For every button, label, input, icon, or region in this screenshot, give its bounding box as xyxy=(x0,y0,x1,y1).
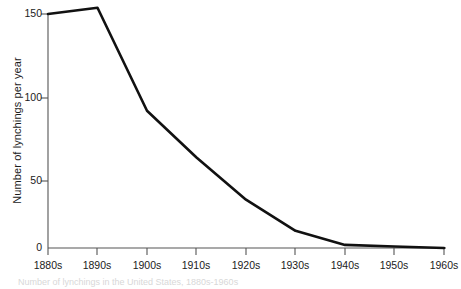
y-tick-label-100: 100 xyxy=(12,92,42,103)
y-tick-label-150: 150 xyxy=(12,8,42,19)
y-tick-label-50: 50 xyxy=(12,175,42,186)
chart-figure: Number of lynchings per year 150 100 50 … xyxy=(0,0,461,289)
series-line-lynchings xyxy=(48,8,444,248)
y-axis-tick-labels: 150 100 50 0 xyxy=(0,0,42,289)
figure-caption: Number of lynchings in the United States… xyxy=(18,277,458,288)
chart-plot-area xyxy=(0,0,461,289)
y-tick-label-0: 0 xyxy=(12,242,42,253)
x-tick-label-1960s: 1960s xyxy=(414,259,461,271)
